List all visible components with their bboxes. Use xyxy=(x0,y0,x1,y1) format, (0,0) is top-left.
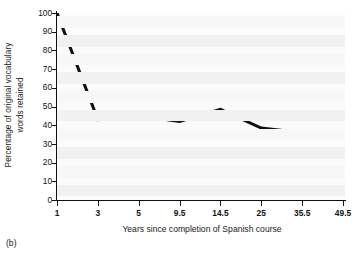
plot-area xyxy=(57,13,345,200)
y-tick-label: 80 xyxy=(30,46,52,54)
y-tick-label: 30 xyxy=(30,140,52,148)
y-tick-label: 100 xyxy=(30,9,52,17)
y-axis-title-line2: words retained xyxy=(15,13,27,197)
x-tick-label: 49.5 xyxy=(323,208,360,218)
x-tick-mark xyxy=(180,201,181,206)
gridline-band xyxy=(57,72,345,84)
x-tick-mark xyxy=(139,201,140,206)
gridline-band xyxy=(57,166,345,178)
y-tick-label: 90 xyxy=(30,27,52,35)
y-axis-title-line1: Percentage of original vocabulary xyxy=(4,43,13,168)
gridline-band xyxy=(57,147,345,159)
y-tick-label: 20 xyxy=(30,158,52,166)
gridline-band xyxy=(57,35,345,47)
gridline-band xyxy=(57,91,345,103)
y-tick-label: 0 xyxy=(30,196,52,204)
x-tick-label: 25 xyxy=(241,208,281,218)
x-tick-label: 14.5 xyxy=(200,208,240,218)
x-tick-mark xyxy=(220,201,221,206)
y-axis-tick-labels: 0102030405060708090100 xyxy=(30,0,52,210)
y-tick-mark xyxy=(52,88,57,89)
x-tick-label: 35.5 xyxy=(282,208,322,218)
y-tick-mark xyxy=(52,13,57,14)
x-tick-label: 5 xyxy=(119,208,159,218)
x-axis-tick-labels: 1359.514.52535.549.5 xyxy=(0,208,360,222)
figure-panel-b: Percentage of original vocabulary words … xyxy=(0,0,360,257)
y-tick-mark xyxy=(52,163,57,164)
y-tick-mark xyxy=(52,69,57,70)
x-axis-title: Years since completion of Spanish course xyxy=(57,224,347,234)
y-tick-mark xyxy=(52,144,57,145)
gridline-band xyxy=(57,129,345,141)
y-tick-label: 40 xyxy=(30,121,52,129)
gridline-band xyxy=(57,54,345,66)
y-tick-label: 70 xyxy=(30,65,52,73)
y-axis-title: Percentage of original vocabulary words … xyxy=(0,0,34,210)
gridline-band xyxy=(57,185,345,197)
x-tick-mark xyxy=(98,201,99,206)
y-tick-mark xyxy=(52,50,57,51)
y-tick-mark xyxy=(52,107,57,108)
gridline-band xyxy=(57,110,345,122)
y-tick-label: 60 xyxy=(30,83,52,91)
x-tick-mark xyxy=(302,201,303,206)
x-tick-label: 3 xyxy=(78,208,118,218)
y-tick-label: 10 xyxy=(30,177,52,185)
x-tick-label: 1 xyxy=(37,208,77,218)
y-tick-label: 50 xyxy=(30,102,52,110)
x-tick-label: 9.5 xyxy=(160,208,200,218)
gridline-bands xyxy=(57,13,345,200)
y-tick-mark xyxy=(52,125,57,126)
y-tick-mark xyxy=(52,181,57,182)
x-tick-mark xyxy=(343,201,344,206)
y-tick-mark xyxy=(52,32,57,33)
x-tick-mark xyxy=(261,201,262,206)
gridline-band xyxy=(57,16,345,28)
x-tick-mark xyxy=(57,201,58,206)
figure-caption: (b) xyxy=(6,238,17,248)
